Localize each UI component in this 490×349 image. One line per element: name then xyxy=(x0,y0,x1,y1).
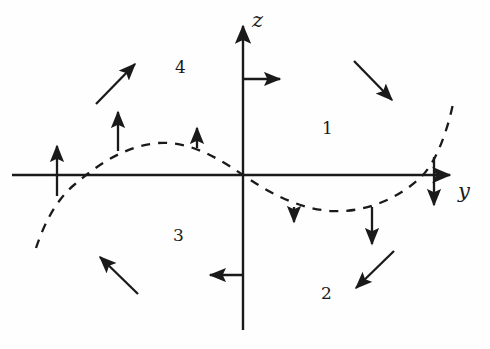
arrow-diag-up-right-upper-left xyxy=(96,64,135,104)
axes-group xyxy=(12,26,450,330)
arrow-diag-up-left-lower-left xyxy=(100,257,138,294)
figure-root: z y 1 2 3 4 xyxy=(0,0,490,349)
arrow-diag-down-left-lower-right xyxy=(356,251,394,288)
region-label-1: 1 xyxy=(322,120,333,137)
direction-field-plot xyxy=(0,0,490,349)
z-axis-label: z xyxy=(252,10,263,31)
arrow-diag-down-right-upper-right xyxy=(354,61,392,100)
region-label-3: 3 xyxy=(173,227,184,244)
direction-arrows xyxy=(57,61,434,294)
region-label-4: 4 xyxy=(175,59,186,76)
region-label-2: 2 xyxy=(321,285,332,302)
y-axis-label: y xyxy=(458,181,470,202)
